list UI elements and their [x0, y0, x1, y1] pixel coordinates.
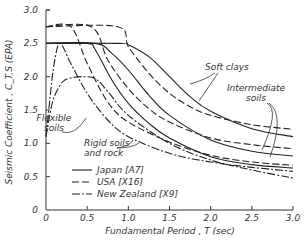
legend-label: USA [X16] — [97, 177, 143, 187]
y-tick-label: 2.0 — [24, 72, 39, 82]
annotation-label: Soft clays — [205, 62, 249, 72]
y-tick-label: 0 — [32, 205, 38, 215]
x-tick-label: 0.5 — [80, 213, 95, 223]
y-tick-label: 3.0 — [24, 5, 39, 15]
annotation-label: Intermediate — [227, 83, 286, 93]
annotation-label: Flexible — [37, 113, 72, 123]
y-tick-label: 0.5 — [24, 172, 39, 182]
x-tick-label: 0 — [43, 213, 49, 223]
legend: Japan [A7]USA [X16]New Zealand [X9] — [72, 165, 178, 199]
annotations: Soft claysIntermediatesoilsFlexiblesoils… — [37, 62, 286, 158]
x-tick-label: 3.0 — [286, 213, 301, 223]
annotation-label: soils — [44, 123, 64, 133]
y-tick-label: 1.0 — [24, 138, 39, 148]
legend-label: New Zealand [X9] — [97, 189, 178, 199]
x-tick-label: 2.5 — [245, 213, 260, 223]
seismic-coefficient-chart: 00.51.01.52.02.53.000.51.01.52.02.53.0 S… — [0, 0, 307, 248]
x-tick-label: 1.0 — [121, 213, 136, 223]
annotation-label: and rock — [84, 148, 124, 158]
y-axis-title: Seismic Coefficient , C_T,S (EPA) — [4, 39, 14, 184]
x-axis-title: Fundamental Period , T (sec) — [105, 226, 234, 236]
legend-label: Japan [A7] — [95, 165, 144, 175]
annotation-label: soils — [246, 93, 266, 103]
annotation-leader — [269, 103, 277, 157]
y-tick-label: 2.5 — [24, 38, 39, 48]
x-tick-label: 2.0 — [204, 213, 219, 223]
x-tick-label: 1.5 — [162, 213, 177, 223]
